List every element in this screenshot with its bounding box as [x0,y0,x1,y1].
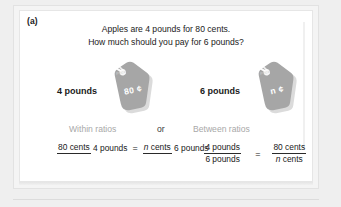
tag-group-right: 6 pounds Price n ¢ [192,57,302,115]
denominator: 6 pounds [205,153,239,164]
denominator-unit: cents [280,154,302,164]
numerator-unit: cents [148,142,170,152]
numerator: n cents [143,142,172,154]
prompt-line-2: How much should you pay for 6 pounds? [19,36,313,49]
equals-sign: = [254,149,261,159]
tag-group-left: 4 pounds Price 80 ¢ [48,57,158,115]
fraction-left: 80 cents 4 pounds [57,142,127,154]
price-tag-left: Price 80 ¢ [106,59,160,115]
figure-container: (a) Apples are 4 pounds for 80 cents. Ho… [0,0,341,207]
within-ratios-equation: 80 cents 4 pounds = n cents 6 pounds [57,142,209,154]
ratio-headings: Within ratios or Between ratios [19,124,313,138]
fraction-right: 80 cents n cents [265,142,313,165]
equations-row: 80 cents 4 pounds = n cents 6 pounds 4 p… [19,142,313,176]
or-connector: or [157,124,165,134]
bottom-divider [13,199,319,200]
price-tag-icon [250,59,304,115]
numerator: 80 cents [272,142,306,154]
price-tag-icon [106,59,160,115]
fraction-left: 4 pounds 6 pounds [195,142,250,165]
between-ratios-heading: Between ratios [193,124,250,134]
numerator: 4 pounds [204,142,240,154]
numerator: 80 cents [57,142,91,154]
prompt-line-1: Apples are 4 pounds for 80 cents. [19,23,313,36]
denominator: 4 pounds [93,142,127,153]
pounds-label-left: 4 pounds [57,86,97,96]
pounds-label-right: 6 pounds [200,86,240,96]
problem-prompt: Apples are 4 pounds for 80 cents. How mu… [19,23,313,48]
equals-sign: = [131,143,138,153]
denominator: n cents [276,153,303,164]
panel-shadow [19,182,313,185]
price-tag-right: Price n ¢ [250,59,304,115]
within-ratios-heading: Within ratios [69,124,116,134]
between-ratios-equation: 4 pounds 6 pounds = 80 cents n cents [195,142,313,165]
